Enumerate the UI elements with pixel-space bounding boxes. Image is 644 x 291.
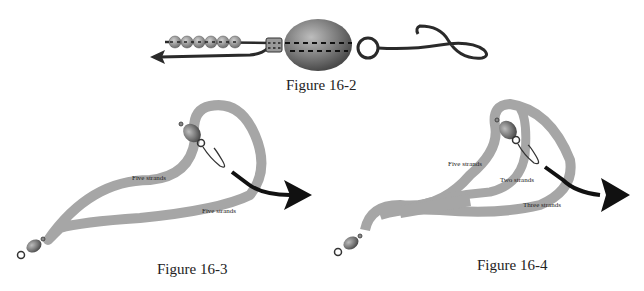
line-arrow bbox=[160, 48, 268, 57]
figure-caption-16-4: Figure 16-4 bbox=[477, 257, 548, 273]
strand-label: Three strands bbox=[523, 201, 561, 209]
figure-16-4-illustration: Five strands Two strands Three strands bbox=[335, 104, 631, 256]
large-bead bbox=[284, 19, 352, 71]
snap-hook bbox=[203, 147, 225, 167]
swivel-ring bbox=[358, 38, 378, 58]
figure-caption-16-2: Figure 16-2 bbox=[286, 77, 356, 93]
crimp-tube bbox=[266, 38, 282, 52]
strand-label: Five strands bbox=[132, 174, 166, 182]
arrowhead-right-icon bbox=[601, 178, 630, 212]
diagram-canvas: Figure 16-2 Five strands Five strands Fi… bbox=[0, 0, 644, 291]
figure-caption-16-3: Figure 16-3 bbox=[157, 261, 227, 277]
strand-label: Two strands bbox=[500, 176, 534, 184]
figure-16-2-illustration bbox=[150, 19, 487, 71]
strand-label: Five strands bbox=[202, 207, 236, 215]
small-beads bbox=[169, 36, 241, 48]
hook-wire bbox=[378, 26, 487, 58]
strand-label: Five strands bbox=[448, 160, 482, 168]
strand-loop bbox=[48, 105, 261, 240]
figure-16-3-illustration: Five strands Five strands bbox=[18, 105, 313, 258]
